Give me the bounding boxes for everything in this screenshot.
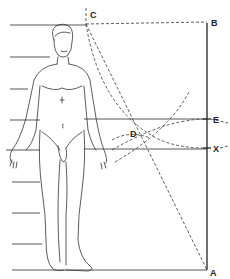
label-A: A [210, 268, 217, 278]
head-unit-guide-lines [6, 25, 207, 270]
label-X: X [213, 144, 219, 154]
point-labels: C B D E X A [90, 10, 219, 278]
proportion-diagram: C B D E X A [0, 0, 230, 279]
label-E: E [213, 115, 219, 125]
label-D: D [130, 129, 137, 139]
label-B: B [211, 18, 218, 28]
label-C: C [90, 10, 97, 20]
human-figure [10, 24, 107, 271]
